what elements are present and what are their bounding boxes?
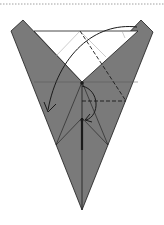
reference-point (80, 81, 84, 85)
origami-diagram (0, 0, 164, 225)
reference-point (80, 118, 83, 121)
